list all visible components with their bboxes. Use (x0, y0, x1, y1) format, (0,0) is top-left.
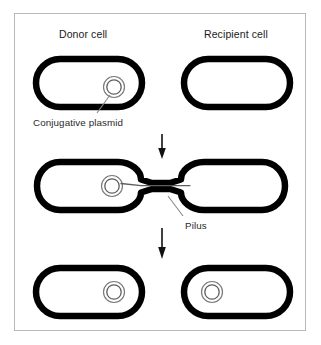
conjugation-diagram (0, 0, 321, 345)
arrow-stage1-to-stage2 (158, 134, 166, 159)
stage-3-group (36, 268, 290, 316)
recipient-cell-stage1 (184, 59, 290, 107)
recipient-cell-stage3 (184, 268, 290, 316)
stage-2-group (37, 162, 285, 216)
arrow-stage2-to-stage3 (158, 228, 166, 259)
pilus-label: Pilus (185, 220, 207, 231)
conjugative-plasmid-label: Conjugative plasmid (33, 117, 123, 128)
donor-cell-label: Donor cell (59, 28, 107, 40)
donor-cell-stage3 (36, 268, 142, 316)
stage-1-group (36, 59, 290, 113)
donor-cell-stage1 (36, 59, 142, 107)
figure-canvas: Donor cell Recipient cell Conjugative pl… (0, 0, 321, 345)
recipient-cell-label: Recipient cell (204, 28, 268, 40)
